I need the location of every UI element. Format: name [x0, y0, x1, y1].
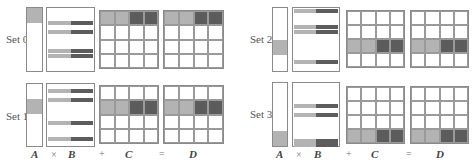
plus-sign-right: +	[346, 148, 352, 159]
label-d-left: D	[189, 148, 197, 160]
set-2-b-stripe	[294, 30, 338, 34]
set-0-a-highlight	[27, 8, 42, 23]
set-2-matrix-c	[346, 10, 405, 68]
set-0-b-stripe	[48, 30, 93, 34]
label-b-right: B	[314, 148, 321, 160]
set-3-label: Set 3	[250, 108, 272, 120]
set-2-matrix-b	[292, 7, 340, 72]
set-1-b-stripe	[48, 98, 93, 102]
set-2-b-stripe	[294, 25, 338, 29]
label-b-left: B	[68, 148, 75, 160]
set-1-label: Set 1	[6, 110, 28, 122]
set-1-matrix-b	[46, 83, 95, 147]
set-2-a-highlight	[273, 40, 287, 55]
equals-sign-left: =	[159, 148, 165, 159]
set-1-b-stripe	[48, 137, 93, 141]
set-2-label: Set 2	[250, 33, 272, 45]
set-1-matrix-d	[163, 85, 224, 144]
set-3-b-stripe	[294, 113, 338, 117]
set-0-matrix-a	[26, 7, 43, 72]
set-3-a-highlight	[273, 131, 287, 146]
set-1-matrix-c	[99, 85, 159, 144]
set-2-b-stripe	[294, 60, 338, 64]
set-3-matrix-d	[410, 86, 469, 144]
times-sign-right: ×	[296, 149, 302, 160]
set-0-matrix-d	[163, 10, 224, 69]
set-3-b-stripe	[294, 104, 338, 108]
plus-sign-left: +	[99, 148, 105, 159]
equals-sign-right: =	[406, 148, 412, 159]
label-c-left: C	[125, 148, 132, 160]
set-0-b-stripe	[48, 54, 93, 58]
set-2-matrix-d	[410, 10, 469, 68]
label-c-right: C	[371, 148, 378, 160]
set-0-matrix-b	[46, 7, 95, 72]
set-2-matrix-a	[272, 7, 288, 72]
times-sign-left: ×	[51, 149, 57, 160]
set-0-b-stripe	[48, 21, 93, 25]
label-a-left: A	[31, 148, 38, 160]
set-0-b-stripe	[48, 49, 93, 53]
set-3-matrix-c	[346, 86, 405, 144]
set-3-matrix-a	[272, 82, 288, 147]
set-1-b-stripe	[48, 89, 93, 93]
label-a-right: A	[276, 148, 283, 160]
set-0-label: Set 0	[6, 33, 28, 45]
set-2-b-stripe	[294, 9, 338, 13]
set-3-matrix-b	[292, 82, 340, 147]
set-1-b-stripe	[48, 121, 93, 125]
label-d-right: D	[436, 148, 444, 160]
set-1-matrix-a	[26, 83, 43, 147]
set-3-b-stripe	[294, 143, 338, 147]
set-0-matrix-c	[99, 10, 159, 69]
set-1-a-highlight	[27, 99, 42, 114]
